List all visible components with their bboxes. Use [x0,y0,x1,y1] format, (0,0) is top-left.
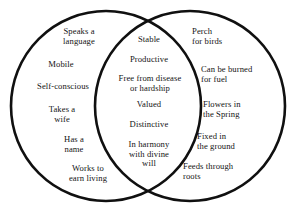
intersection-item-0: Stable [118,35,180,45]
right-set-item-1: Can be burned for fuel [201,65,283,84]
left-set-item-2: Self-conscious [22,82,104,92]
right-set-item-4: Feeds through roots [183,162,265,181]
intersection-item-3: Valued [118,100,180,110]
left-set-item-4: Has a name [45,135,103,154]
right-set-item-3: Fixed in the ground [197,132,269,151]
left-set-item-3: Takes a wife [33,105,91,124]
intersection-item-5: In harmony with divine will [114,140,184,169]
intersection-item-2: Free from disease or hardship [106,74,194,93]
left-set-item-1: Mobile [32,60,90,70]
intersection-item-4: Distinctive [114,120,184,130]
right-set-item-0: Perch for birds [192,27,262,46]
intersection-item-1: Productive [112,55,186,65]
left-set-item-0: Speaks a language [48,27,110,46]
left-set-item-5: Works to earn living [55,164,121,183]
right-set-item-2: Flowers in the Spring [203,100,275,119]
venn-diagram: Speaks a languageMobileSelf-consciousTak… [0,0,295,217]
